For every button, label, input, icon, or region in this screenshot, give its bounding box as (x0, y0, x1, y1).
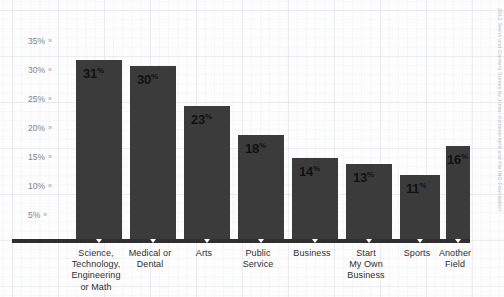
bar-value-number: 13 (353, 170, 367, 185)
bar-value-percent-sign: % (367, 170, 374, 179)
y-tick-marker-icon: » (48, 66, 52, 73)
y-tick-15: 15%» (28, 152, 74, 162)
x-axis-tick-0 (96, 239, 102, 243)
y-tick-30: 30%» (28, 65, 74, 75)
bar-value-business: 14% (299, 164, 320, 179)
x-label-line: Service (228, 259, 288, 270)
x-axis-tick-5 (366, 239, 372, 243)
y-tick-label: 25% (28, 94, 45, 104)
bar-value-number: 14 (299, 164, 313, 179)
y-tick-marker-icon: » (43, 211, 47, 218)
bar-value-number: 23 (191, 112, 205, 127)
bar-value-percent-sign: % (205, 112, 212, 121)
bar-value-percent-sign: % (419, 181, 426, 190)
x-axis-baseline (12, 239, 470, 243)
y-tick-marker-icon: » (48, 124, 52, 131)
x-label-line: Another (427, 248, 483, 259)
x-label-line: Business (335, 270, 397, 281)
y-tick-5: 5%» (28, 210, 74, 220)
bar-value-percent-sign: % (259, 141, 266, 150)
y-tick-marker-icon: » (48, 153, 52, 160)
bar-value-public-service: 18% (245, 141, 266, 156)
x-label-line: Dental (116, 259, 184, 270)
x-label-arts: Arts (176, 248, 232, 259)
bar-value-science-technology-engineering-or-math: 31% (83, 66, 104, 81)
chart-screenshot: 35%» 30%» 25%» 20%» 15%» 10%» 5%» (0, 0, 504, 297)
y-tick-label: 15% (28, 152, 45, 162)
bar-value-percent-sign: % (97, 66, 104, 75)
bar-value-number: 11 (406, 181, 419, 196)
bar-value-number: 30 (137, 72, 151, 87)
y-tick-label: 10% (28, 181, 45, 191)
y-tick-label: 20% (28, 123, 45, 133)
y-tick-marker-icon: » (48, 182, 52, 189)
y-tick-label: 5% (28, 210, 40, 220)
bar-science-technology-engineering-or-math[interactable] (76, 60, 122, 239)
bar-medical-or-dental[interactable] (130, 66, 176, 239)
x-axis-tick-1 (150, 239, 156, 243)
bar-value-number: 18 (245, 141, 259, 156)
bar-value-start-my-own-business: 13% (353, 170, 374, 185)
bar-value-medical-or-dental: 30% (137, 72, 158, 87)
bar-value-number: 31 (83, 66, 97, 81)
x-axis-tick-2 (204, 239, 210, 243)
bar-value-arts: 23% (191, 112, 212, 127)
bar-value-number: 16 (447, 152, 461, 167)
y-tick-20: 20%» (28, 123, 74, 133)
x-axis-tick-3 (258, 239, 264, 243)
x-label-line: My Own (335, 259, 397, 270)
x-label-line: Engineering (61, 270, 131, 281)
x-label-line: or Math (61, 282, 131, 293)
x-label-another-field: Another Field (427, 248, 483, 270)
y-tick-marker-icon: » (48, 37, 52, 44)
x-label-line: Medical or (116, 248, 184, 259)
x-label-line: Field (427, 259, 483, 270)
x-axis-tick-6 (417, 239, 423, 243)
y-tick-10: 10%» (28, 181, 74, 191)
x-label-line: Start (335, 248, 397, 259)
bar-value-sports: 11% (406, 181, 426, 196)
x-label-line: Arts (176, 248, 232, 259)
x-label-line: Public (228, 248, 288, 259)
y-tick-25: 25%» (28, 94, 74, 104)
x-label-business: Business (281, 248, 343, 259)
y-tick-label: 35% (28, 36, 45, 46)
y-tick-label: 30% (28, 65, 45, 75)
x-label-public-service: Public Service (228, 248, 288, 270)
x-axis-tick-4 (312, 239, 318, 243)
source-attribution: 2012 Teens and Careers Survey by Junior … (497, 8, 503, 211)
x-label-start-my-own-business: Start My Own Business (335, 248, 397, 282)
x-label-medical-or-dental: Medical or Dental (116, 248, 184, 270)
bar-value-percent-sign: % (151, 72, 158, 81)
bar-chart-plot-area: 35%» 30%» 25%» 20%» 15%» 10%» 5%» (0, 0, 504, 297)
x-axis-tick-7 (455, 239, 461, 243)
bar-value-percent-sign: % (313, 164, 320, 173)
bar-value-another-field: 16% (447, 152, 468, 167)
y-tick-35: 35%» (28, 36, 74, 46)
bar-value-percent-sign: % (461, 152, 468, 161)
y-tick-marker-icon: » (48, 95, 52, 102)
x-label-line: Business (281, 248, 343, 259)
